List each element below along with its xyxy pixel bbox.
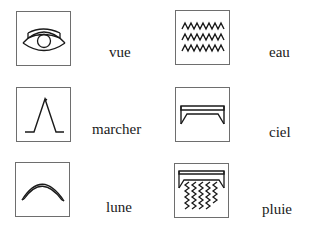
word-label: lune [106, 199, 132, 215]
eye-icon [16, 11, 71, 66]
walking-legs-icon [16, 87, 71, 142]
word-label: marcher [92, 121, 141, 137]
word-label: pluie [262, 201, 292, 217]
word-label: vue [109, 44, 131, 60]
word-label: eau [269, 44, 290, 60]
rain-icon [174, 163, 229, 218]
water-waves-icon [175, 10, 230, 65]
word-label: ciel [269, 124, 291, 140]
moon-crescent-icon [15, 162, 70, 217]
sky-icon [175, 87, 230, 142]
